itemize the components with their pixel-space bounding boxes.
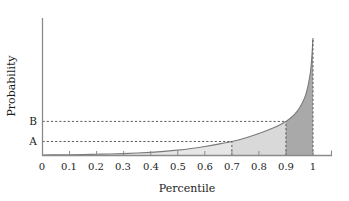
- x-tick-label-7: 0.7: [224, 161, 240, 172]
- x-tick-label-4: 0.4: [143, 161, 159, 172]
- chart-svg: 0 0.1 0.2 0.3 0.4 0.5 0.6 0.7 0.8 0.9 1 …: [0, 0, 349, 201]
- x-tick-label-3: 0.3: [115, 161, 131, 172]
- shaded-region-dark: [286, 38, 313, 156]
- y-level-label-A: A: [28, 135, 37, 147]
- x-tick-label-1: 0.1: [61, 161, 77, 172]
- y-axis-title: Probability: [5, 55, 18, 117]
- y-level-label-B: B: [29, 115, 37, 127]
- x-tick-label-0: 0: [39, 161, 45, 172]
- x-tick-label-9: 0.9: [278, 161, 294, 172]
- probability-percentile-chart: 0 0.1 0.2 0.3 0.4 0.5 0.6 0.7 0.8 0.9 1 …: [0, 0, 349, 201]
- x-tick-label-5: 0.5: [170, 161, 186, 172]
- x-tick-label-10: 1: [310, 161, 316, 172]
- x-tick-label-2: 0.2: [88, 161, 104, 172]
- x-tick-label-6: 0.6: [197, 161, 213, 172]
- x-axis-title: Percentile: [159, 182, 215, 195]
- x-tick-label-8: 0.8: [251, 161, 267, 172]
- shaded-region-light: [232, 121, 286, 155]
